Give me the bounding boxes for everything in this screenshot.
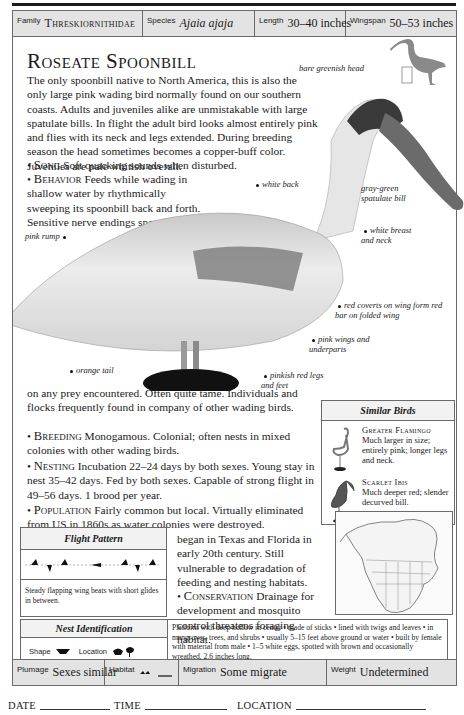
habitat-label: Habitat (109, 665, 134, 674)
north-america-map-icon (336, 512, 453, 615)
field-guide-page: Family Threskiornithidae Species Ajaia a… (12, 10, 457, 686)
page-title: Roseate Spoonbill (27, 49, 196, 74)
flight-pattern-title: Flight Pattern (21, 528, 166, 550)
family-value: Threskiornithidae (45, 16, 136, 31)
species-value: Ajaia ajaja (179, 16, 233, 31)
summary-bar: Plumage Sexes similar Habitat Migration … (13, 659, 456, 685)
conservation-label: Conservation (184, 589, 253, 603)
range-map (335, 511, 453, 615)
similar-bird-flamingo: Greater Flamingo Much larger in size; en… (322, 421, 454, 473)
population-label: Population (34, 503, 91, 517)
flight-pattern-icon (21, 550, 166, 580)
date-label: Date (8, 700, 36, 711)
wingspan-value: 50–53 inches (390, 16, 454, 31)
nest-location-label: Location (79, 647, 107, 656)
similar-bird-desc: Much deeper red; slender decurved bill. (362, 487, 450, 507)
flight-pattern-caption: Steady flapping wing beats with short gl… (21, 580, 166, 611)
top-rule (12, 3, 456, 6)
callout-rump: pink rump (25, 231, 69, 241)
flight-pattern-box: Flight Pattern Steady flapping wing beat… (20, 527, 167, 617)
location-field[interactable] (296, 700, 426, 710)
breeding-label: Breeding (34, 429, 82, 443)
flamingo-icon (326, 425, 358, 473)
migration-label: Migration (183, 665, 216, 674)
migration-value: Some migrate (220, 665, 287, 680)
nesting-label: Nesting (34, 459, 75, 473)
time-field[interactable] (145, 700, 227, 710)
weight-cell: Weight Undetermined (327, 660, 456, 685)
size-silhouette-icon (388, 33, 450, 91)
date-field[interactable] (40, 700, 110, 710)
similar-birds-title: Similar Birds (322, 401, 454, 421)
nest-identification-title: Nest Identification (21, 620, 167, 638)
location-label: Location (237, 700, 292, 711)
family-cell: Family Threskiornithidae (13, 11, 143, 36)
platform-nest-icon (56, 647, 70, 655)
weight-label: Weight (331, 665, 356, 674)
callout-head: bare greenish head (299, 63, 364, 73)
callout-back: white back (253, 179, 299, 189)
sighting-log: Date Time Location (8, 700, 426, 711)
species-label: Species (147, 16, 175, 25)
plumage-label: Plumage (17, 665, 49, 674)
time-label: Time (114, 700, 141, 711)
callout-tail: orange tail (67, 365, 114, 375)
breeding-section: • Breeding Monogamous. Colonial; often n… (27, 429, 319, 458)
behavior-continued: on any prey encountered. Often quite tam… (27, 386, 319, 415)
weight-value: Undetermined (360, 665, 429, 680)
callout-breast: white breast and neck (361, 225, 421, 245)
similar-birds-box: Similar Birds Greater Flamingo Much larg… (321, 400, 455, 525)
species-cell: Species Ajaia ajaja (143, 11, 255, 36)
similar-bird-name: Scarlet Ibis (362, 477, 450, 487)
length-cell: Length 30–40 inches (255, 11, 346, 36)
similar-bird-name: Greater Flamingo (362, 425, 450, 435)
flight-pattern-diagram (21, 550, 166, 580)
wingspan-label: Wingspan (350, 16, 386, 25)
nest-shape-label: Shape (29, 647, 51, 656)
habitat-cell: Habitat (105, 660, 179, 685)
similar-bird-desc: Much larger in size; entirely pink; long… (362, 435, 450, 465)
mangrove-tree-icon (112, 645, 136, 657)
habitat-wetland-icon (138, 668, 174, 678)
length-label: Length (259, 16, 283, 25)
callout-bill: gray-green spatulate bill (361, 183, 423, 203)
population-continued: began in Texas and Florida in early 20th… (177, 532, 323, 589)
callout-wings: pink wings and underparts (309, 334, 379, 354)
nesting-section: • Nesting Incubation 22–24 days by both … (27, 459, 319, 502)
migration-cell: Migration Some migrate (179, 660, 327, 685)
plumage-cell: Plumage Sexes similar (13, 660, 105, 685)
family-label: Family (17, 16, 41, 25)
length-value: 30–40 inches (287, 16, 351, 31)
callout-coverts: red coverts on wing form red bar on fold… (335, 300, 445, 320)
